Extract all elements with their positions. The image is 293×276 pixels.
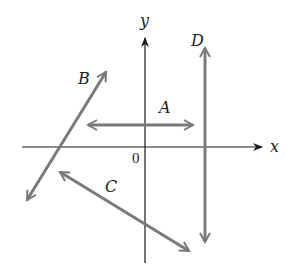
vector-c: [60, 172, 189, 251]
y-axis-label: y: [139, 11, 150, 30]
vector-b: [27, 72, 106, 200]
vector-d-label: D: [190, 31, 204, 50]
origin-label: 0: [132, 150, 140, 166]
diagram-svg: x y 0 A B C D: [0, 0, 293, 276]
coordinate-diagram: x y 0 A B C D: [0, 0, 293, 276]
vector-c-label: C: [105, 177, 117, 196]
x-axis-label: x: [270, 137, 279, 156]
vector-a-label: A: [157, 98, 171, 117]
vector-b-label: B: [77, 69, 90, 88]
